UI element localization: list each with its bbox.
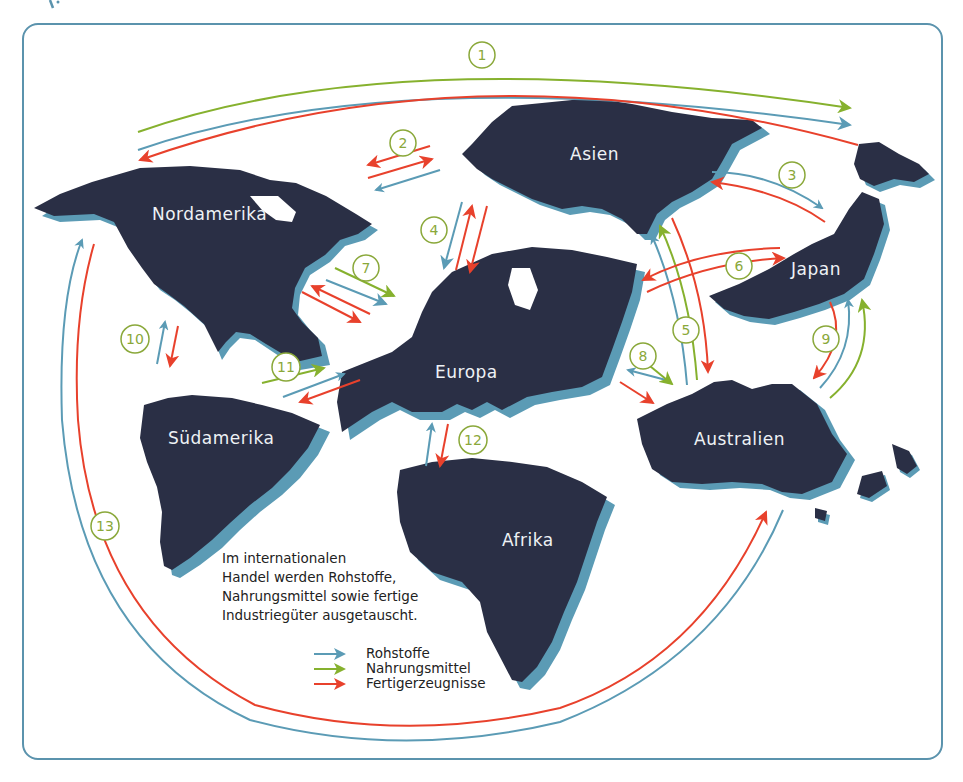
route-number-3: 3: [779, 162, 805, 188]
legend-item-nahrungsmittel: Nahrungsmittel: [312, 661, 486, 676]
route-number-6: 6: [726, 253, 752, 279]
svg-text:2: 2: [399, 135, 408, 151]
svg-text:4: 4: [430, 222, 439, 238]
landmass-ostsibirien: [854, 142, 935, 192]
label-afrika: Afrika: [502, 530, 554, 550]
continent-nordamerika: [34, 166, 378, 370]
trade-map-diagram: Nordamerika Südamerika Europa Afrika Asi…: [0, 0, 963, 782]
arrow-green-icon: [312, 663, 352, 675]
svg-text:5: 5: [682, 322, 691, 338]
route-number-5: 5: [673, 317, 699, 343]
route-5-arrows: [652, 218, 708, 385]
arrow-blue-icon: [312, 648, 352, 660]
label-europa: Europa: [435, 362, 498, 382]
svg-text:9: 9: [822, 331, 831, 347]
route-number-2: 2: [390, 130, 416, 156]
route-number-9: 9: [813, 326, 839, 352]
svg-text:10: 10: [126, 331, 144, 347]
route-number-4: 4: [421, 217, 447, 243]
route-number-1: 1: [469, 42, 495, 68]
caption-text: Im internationalen Handel werden Rohstof…: [222, 549, 418, 625]
route-number-8: 8: [630, 343, 656, 369]
route-number-13: 13: [91, 512, 119, 540]
continent-europa: [337, 247, 645, 440]
label-japan: Japan: [790, 259, 841, 279]
route-10-arrows: [157, 322, 178, 366]
label-nordamerika: Nordamerika: [152, 204, 267, 224]
svg-text:8: 8: [639, 348, 648, 364]
label-asien: Asien: [570, 144, 619, 164]
route-number-11: 11: [272, 353, 300, 381]
svg-text:6: 6: [735, 258, 744, 274]
label-suedamerika: Südamerika: [168, 428, 274, 448]
route-number-10: 10: [121, 325, 149, 353]
legend: Rohstoffe Nahrungsmittel Fertigerzeugnis…: [312, 646, 486, 691]
arrow-red-icon: [312, 678, 352, 690]
legend-item-rohstoffe: Rohstoffe: [312, 646, 486, 661]
svg-text:12: 12: [464, 432, 482, 448]
svg-text:1: 1: [478, 47, 487, 63]
route-7-arrows: [302, 268, 394, 322]
route-3-arrows: [712, 172, 825, 222]
svg-text:11: 11: [277, 359, 295, 375]
continent-asien: [462, 98, 770, 240]
svg-text:7: 7: [362, 260, 371, 276]
route-number-7: 7: [353, 255, 379, 281]
label-australien: Australien: [694, 429, 785, 449]
legend-item-fertigerzeugnisse: Fertigerzeugnisse: [312, 676, 486, 691]
route-12-arrows: [426, 424, 448, 466]
route-number-12: 12: [459, 426, 487, 454]
svg-text:13: 13: [96, 518, 114, 534]
svg-text:3: 3: [788, 167, 797, 183]
